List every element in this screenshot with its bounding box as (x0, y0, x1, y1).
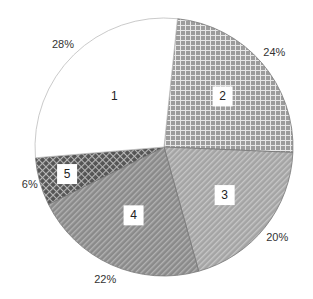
percent-label: 22% (94, 273, 116, 285)
percent-label: 24% (263, 46, 285, 58)
percent-label: 20% (266, 231, 288, 243)
category-label: 3 (221, 188, 228, 202)
category-label: 2 (219, 89, 226, 103)
pie-slice-2 (164, 19, 293, 153)
percent-label: 6% (22, 178, 38, 190)
percent-label: 28% (52, 38, 74, 50)
category-label: 5 (64, 167, 71, 181)
pie-chart: 224%320%422%56%128% (0, 0, 313, 299)
category-label: 1 (111, 89, 118, 103)
category-label: 4 (130, 208, 137, 222)
